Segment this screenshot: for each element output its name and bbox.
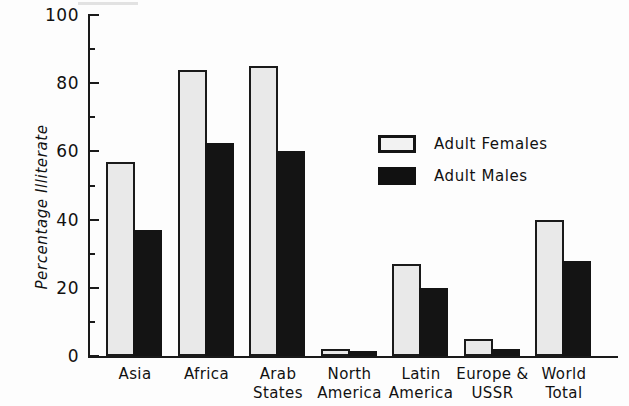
y-tick-60: 60 [88, 150, 99, 152]
bar-male [205, 143, 234, 356]
bar-male [491, 349, 520, 356]
bar-male [133, 230, 162, 356]
bar-group [321, 15, 379, 356]
bar-female [178, 70, 207, 356]
y-tick-label-80: 80 [56, 73, 79, 93]
y-tick-20: 20 [88, 287, 99, 289]
legend-item-adult-males: Adult Males [378, 160, 548, 192]
male-swatch-icon [378, 167, 416, 185]
bar-female [249, 66, 278, 356]
bar-male [419, 288, 448, 356]
y-tick-minor-10 [88, 321, 95, 323]
y-tick-label-100: 100 [45, 5, 79, 25]
legend-item-adult-females: Adult Females [378, 128, 548, 160]
bar-female [321, 349, 350, 356]
y-axis-spine [88, 15, 90, 358]
y-tick-label-40: 40 [56, 210, 79, 230]
x-category-label: World Total [514, 365, 614, 403]
y-tick-label-0: 0 [68, 346, 79, 366]
bar-male [276, 151, 305, 356]
y-tick-minor-30 [88, 253, 95, 255]
y-tick-minor-70 [88, 116, 95, 118]
y-tick-minor-50 [88, 185, 95, 187]
bar-female [392, 264, 421, 356]
chart-figure: Percentage Illiterate 020406080100 AsiaA… [0, 0, 629, 406]
y-tick-label-60: 60 [56, 141, 79, 161]
legend-label-adult-females: Adult Females [434, 135, 548, 153]
y-tick-label-20: 20 [56, 278, 79, 298]
bar-male [562, 261, 591, 356]
chart-legend: Adult Females Adult Males [378, 128, 548, 192]
bar-group [249, 15, 307, 356]
y-tick-minor-90 [88, 48, 95, 50]
y-tick-100: 100 [88, 14, 99, 16]
y-tick-0: 0 [88, 355, 99, 357]
bar-female [535, 220, 564, 356]
bar-male [348, 351, 377, 356]
legend-label-adult-males: Adult Males [434, 167, 528, 185]
y-axis-label: Percentage Illiterate [33, 77, 51, 337]
bar-female [106, 162, 135, 356]
scan-artifact [78, 2, 138, 5]
bar-female [464, 339, 493, 356]
y-tick-40: 40 [88, 219, 99, 221]
bar-group [106, 15, 164, 356]
y-tick-80: 80 [88, 82, 99, 84]
x-axis-spine [88, 356, 618, 358]
bar-group [178, 15, 236, 356]
female-swatch-icon [378, 135, 416, 153]
